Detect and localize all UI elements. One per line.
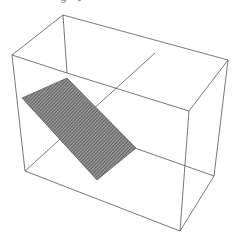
back-left-edge [63,15,67,73]
bounding-box-front [12,15,228,231]
surface-mesh [22,78,136,180]
plot-3d [0,0,237,240]
